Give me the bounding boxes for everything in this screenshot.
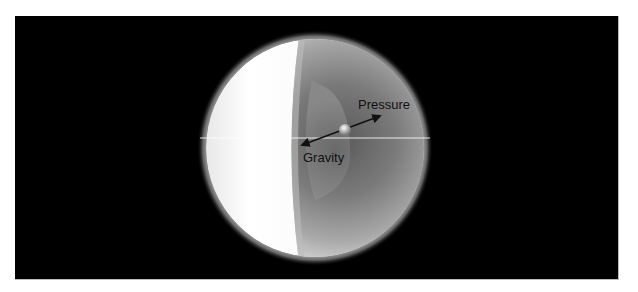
star-cutaway-diagram [0, 0, 638, 292]
pressure-label: Pressure [358, 97, 410, 112]
gravity-label: Gravity [303, 150, 344, 165]
gas-parcel [339, 124, 351, 136]
